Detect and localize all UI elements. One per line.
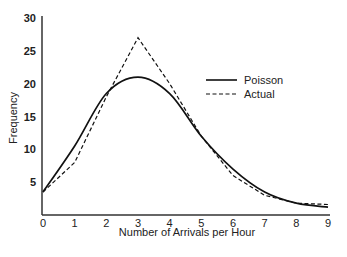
legend: Poisson Actual	[206, 74, 283, 100]
y-tick-label: 5	[30, 176, 36, 188]
x-tick-label: 0	[40, 217, 46, 229]
x-tick-label: 2	[103, 217, 109, 229]
y-tick-label: 20	[24, 78, 36, 90]
x-tick-label: 9	[325, 217, 331, 229]
series-line-poisson	[43, 77, 328, 207]
x-axis-label: Number of Arrivals per Hour	[119, 226, 256, 238]
y-tick-label: 15	[24, 111, 36, 123]
y-tick-label: 25	[24, 45, 36, 57]
x-tick-label: 1	[72, 217, 78, 229]
poisson-vs-actual-chart: 51015202530 0123456789 Number of Arrival…	[0, 0, 347, 257]
legend-poisson-label: Poisson	[244, 74, 283, 86]
x-tick-label: 8	[293, 217, 299, 229]
series-lines	[43, 38, 328, 207]
y-axis-label: Frequency	[7, 92, 19, 144]
y-tick-label: 30	[24, 12, 36, 24]
y-tick-label: 10	[24, 143, 36, 155]
x-tick-label: 7	[262, 217, 268, 229]
legend-actual-label: Actual	[244, 88, 275, 100]
series-line-actual	[43, 38, 328, 205]
y-tick-labels: 51015202530	[24, 12, 36, 188]
